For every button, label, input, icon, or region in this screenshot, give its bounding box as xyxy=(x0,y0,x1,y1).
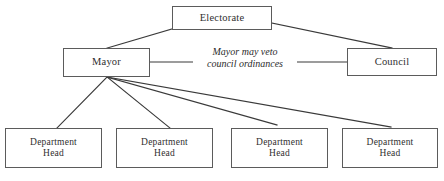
node-department-head-4-label: Department Head xyxy=(367,137,414,160)
node-department-head-3-label: Department Head xyxy=(256,137,303,160)
node-department-head-3[interactable]: Department Head xyxy=(231,128,328,168)
node-mayor[interactable]: Mayor xyxy=(63,48,150,77)
node-department-head-1-label: Department Head xyxy=(30,137,77,160)
node-mayor-label: Mayor xyxy=(92,56,121,69)
edge-mayor-to-dept-4 xyxy=(107,77,391,127)
edge-mayor-to-dept-2 xyxy=(107,77,170,128)
node-department-head-2[interactable]: Department Head xyxy=(116,128,213,168)
node-council[interactable]: Council xyxy=(347,48,437,76)
edge-mayor-to-dept-3 xyxy=(107,77,277,125)
node-electorate-label: Electorate xyxy=(200,12,245,25)
edge-electorate-to-mayor xyxy=(107,29,172,48)
node-council-label: Council xyxy=(375,56,410,69)
node-electorate[interactable]: Electorate xyxy=(172,6,272,30)
org-chart-diagram: Electorate Mayor Council Department Head… xyxy=(0,0,444,181)
edge-electorate-to-council xyxy=(272,23,392,48)
node-department-head-4[interactable]: Department Head xyxy=(342,128,438,168)
annotation-veto-note: Mayor may veto council ordinances xyxy=(193,46,297,70)
node-department-head-1[interactable]: Department Head xyxy=(5,128,102,168)
node-department-head-2-label: Department Head xyxy=(141,137,188,160)
edge-mayor-to-dept-1 xyxy=(57,77,107,128)
